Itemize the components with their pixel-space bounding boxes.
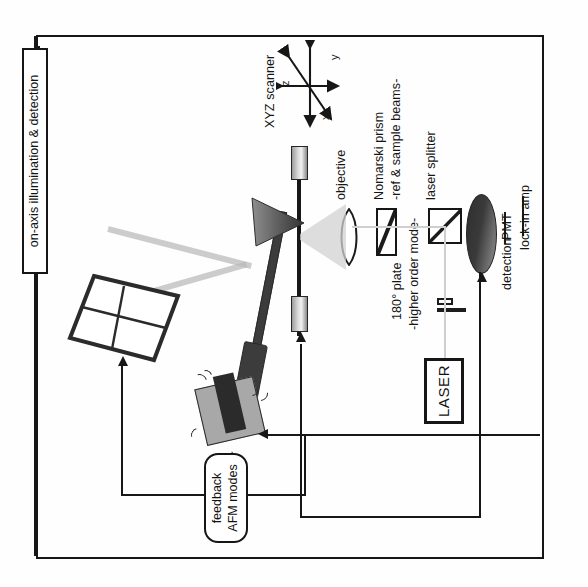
detection-label: detection bbox=[500, 238, 515, 290]
plate-label-line1: 180° plate bbox=[390, 263, 405, 320]
figure-canvas: on-axis illumination & detection XYZ sca… bbox=[0, 0, 588, 587]
arrow-into-pmt bbox=[477, 272, 487, 282]
nomarski-prism bbox=[376, 208, 397, 256]
axis-y-label: y bbox=[328, 54, 341, 60]
laser-splitter-label: laser splitter bbox=[424, 131, 439, 200]
arrow-into-holder bbox=[258, 429, 268, 439]
feedback-label-line2: AFM modes bbox=[226, 464, 240, 531]
optical-path-splitter-to-prism bbox=[352, 226, 444, 228]
wire-pmt-left bbox=[300, 516, 481, 518]
wire-feedback-right bbox=[246, 494, 306, 496]
wire-onaxis-down bbox=[34, 272, 36, 556]
feedback-controller-label: feedback AFM modes bbox=[210, 464, 241, 531]
wire-pmt-down bbox=[479, 272, 481, 518]
focused-beam-cone bbox=[296, 200, 348, 274]
nomarski-prism-label-line2: -ref & sample beams- bbox=[389, 79, 404, 200]
plate-label-line2: -higher order mode- bbox=[407, 218, 422, 330]
pmt-detector bbox=[466, 194, 497, 274]
wire-onaxis-stub-top bbox=[34, 46, 40, 48]
axis-z-label: z bbox=[279, 80, 292, 86]
objective-label: objective bbox=[334, 150, 349, 200]
pmt-label: PMT bbox=[500, 213, 515, 240]
laser-label: LASER bbox=[435, 365, 454, 417]
optical-path-laser-to-splitter bbox=[444, 226, 446, 366]
wire-feedback-up bbox=[304, 434, 306, 496]
wire-photodiode-down bbox=[121, 366, 123, 496]
half-wave-plate-lower bbox=[437, 308, 466, 312]
laser-source[interactable]: LASER bbox=[424, 358, 464, 424]
quadrant-photodiode bbox=[66, 270, 182, 366]
wire-feedback-to-holder bbox=[268, 434, 306, 436]
arrow-into-photodiode bbox=[118, 356, 128, 366]
nomarski-prism-label-line1: Nomarski prism bbox=[372, 112, 387, 200]
axis-x-label: x bbox=[319, 114, 332, 120]
lockin-amp-label: lock-in amp bbox=[518, 185, 533, 250]
on-axis-illumination-label: on-axis illumination & detection bbox=[27, 75, 43, 247]
scanner-block-top bbox=[291, 146, 308, 180]
on-axis-illumination-box[interactable]: on-axis illumination & detection bbox=[22, 48, 48, 274]
feedback-controller[interactable]: feedback AFM modes bbox=[204, 453, 248, 543]
wire-right-rail-to-holder bbox=[304, 434, 540, 436]
wire-photodiode-to-feedback bbox=[121, 494, 206, 496]
feedback-label-line1: feedback bbox=[210, 473, 224, 524]
